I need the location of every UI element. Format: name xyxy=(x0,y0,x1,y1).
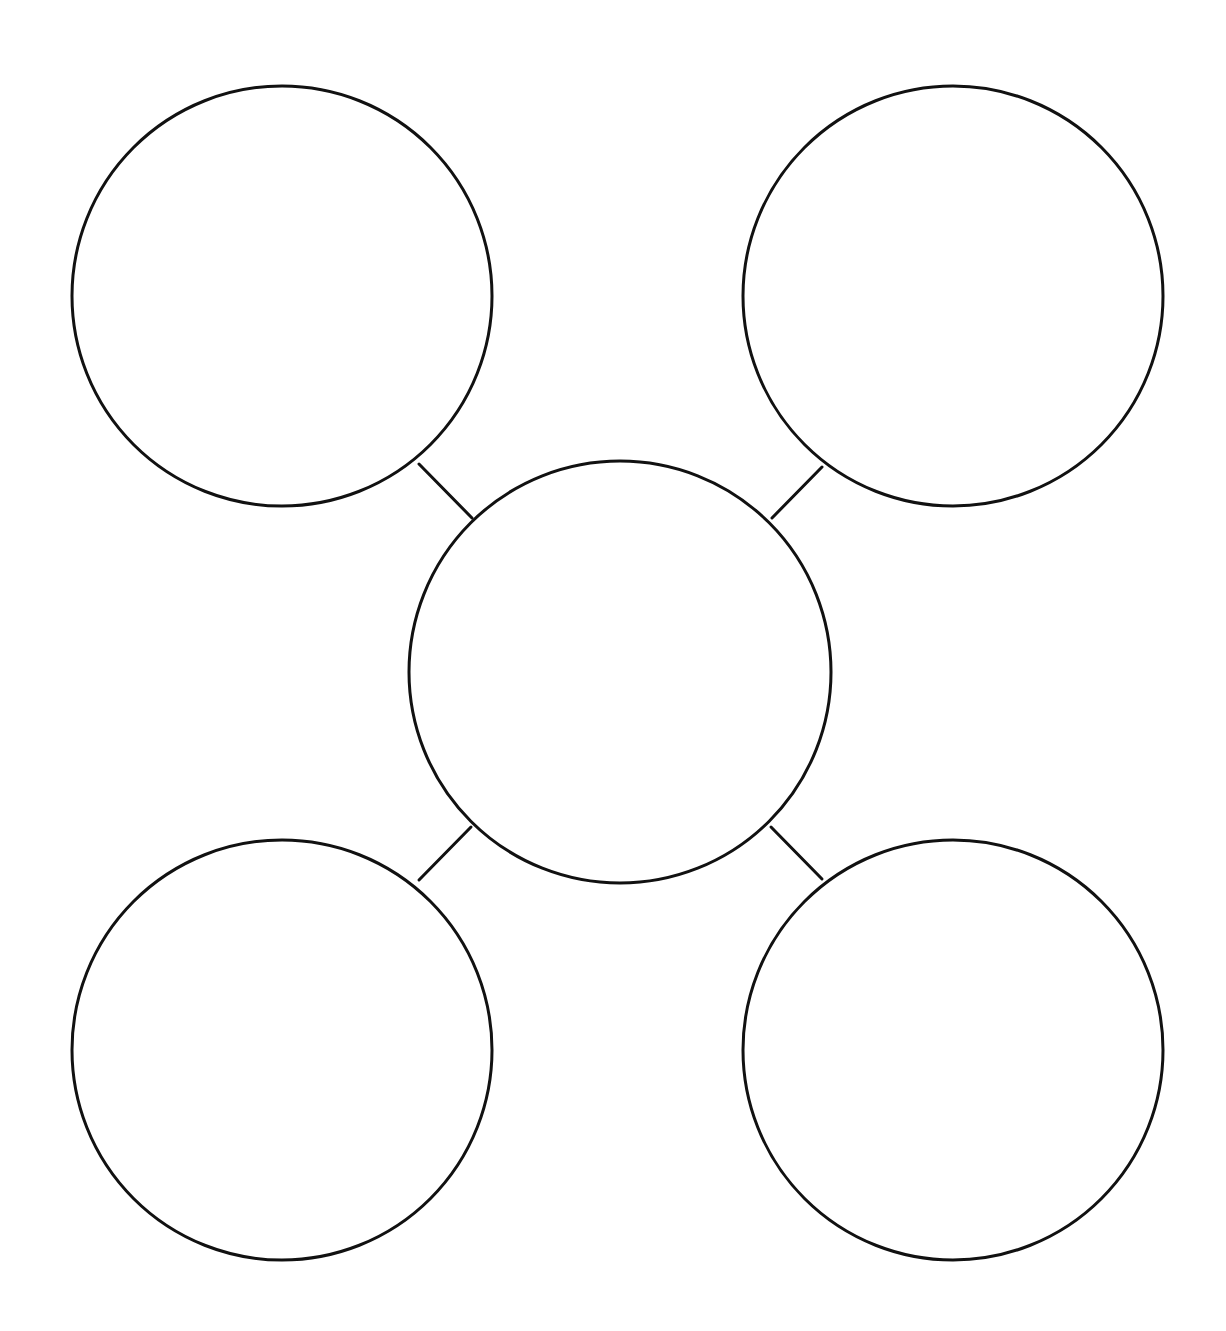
circle-bottom-left xyxy=(72,840,492,1260)
circles xyxy=(72,86,1163,1260)
circle-bottom-left-shape xyxy=(72,840,492,1260)
connector-top-right xyxy=(772,467,822,518)
circle-top-right xyxy=(743,86,1163,506)
circle-bottom-right xyxy=(743,840,1163,1260)
circle-top-right-shape xyxy=(743,86,1163,506)
bubble-map-diagram xyxy=(0,0,1226,1331)
circle-center-shape xyxy=(409,461,831,883)
circle-bottom-right-shape xyxy=(743,840,1163,1260)
circle-center xyxy=(409,461,831,883)
circle-top-left xyxy=(72,86,492,506)
circle-top-left-shape xyxy=(72,86,492,506)
connector-top-left xyxy=(419,464,472,518)
connector-bottom-left xyxy=(419,827,471,880)
connector-bottom-right xyxy=(771,827,822,879)
